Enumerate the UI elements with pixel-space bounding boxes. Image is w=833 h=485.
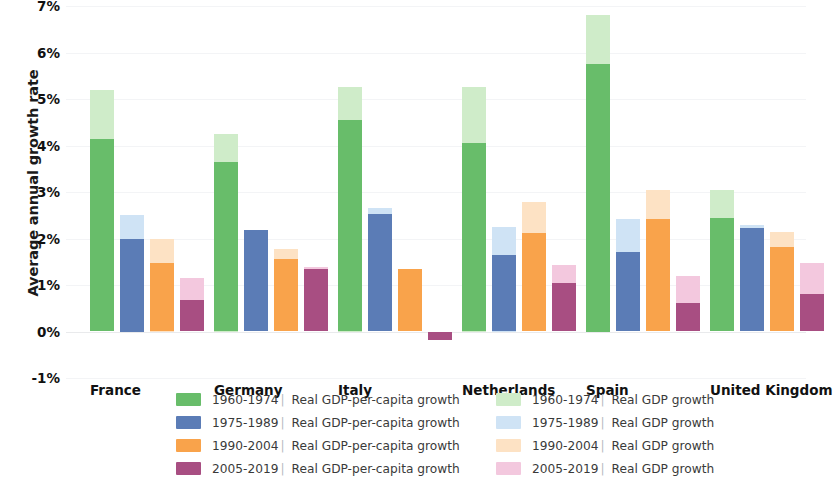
legend-swatch (496, 462, 521, 475)
legend-period: 2005-2019 (532, 462, 598, 476)
y-axis-tick-label: 1% (14, 277, 60, 293)
bar-segment-gdp-per-capita-growth (522, 233, 546, 332)
bar[interactable] (368, 6, 392, 378)
bar-segment-gdp-per-capita-growth (616, 252, 640, 332)
bar-group: Spain (586, 6, 699, 378)
bar[interactable] (90, 6, 114, 378)
bar-segment-gdp-per-capita-growth (244, 230, 268, 331)
legend-metric: Real GDP-per-capita growth (292, 439, 460, 453)
bar[interactable] (462, 6, 486, 378)
bar-group: Germany (214, 6, 327, 378)
legend-separator: | (278, 462, 291, 476)
legend-per-capita-item[interactable]: 1960-1974|Real GDP-per-capita growth (176, 388, 476, 411)
bar-segment-gdp-per-capita-growth (368, 214, 392, 331)
legend-period: 1960-1974 (212, 393, 278, 407)
bar-segment-gdp-per-capita-growth (492, 255, 516, 332)
legend-column-per-capita: 1960-1974|Real GDP-per-capita growth1975… (176, 388, 476, 480)
y-axis-tick-label: 6% (14, 45, 60, 61)
bar[interactable] (150, 6, 174, 378)
y-axis-tick-label: 0% (14, 324, 60, 340)
legend-period: 1990-2004 (212, 439, 278, 453)
legend-label: 2005-2019|Real GDP-per-capita growth (212, 462, 460, 476)
legend-label: 1975-1989|Real GDP-per-capita growth (212, 416, 460, 430)
legend-swatch (176, 393, 201, 406)
legend-metric: Real GDP growth (612, 439, 715, 453)
bar[interactable] (120, 6, 144, 378)
bar-segment-gdp-per-capita-growth (800, 294, 824, 331)
legend-total-item[interactable]: 1990-2004|Real GDP growth (496, 434, 800, 457)
bar[interactable] (646, 6, 670, 378)
legend-per-capita-item[interactable]: 2005-2019|Real GDP-per-capita growth (176, 457, 476, 480)
legend-separator: | (278, 416, 291, 430)
bar[interactable] (244, 6, 268, 378)
bar-segment-gdp-per-capita-growth (770, 247, 794, 332)
bar[interactable] (338, 6, 362, 378)
legend-swatch (496, 439, 521, 452)
legend-separator: | (598, 439, 611, 453)
legend-column-total: 1960-1974|Real GDP growth1975-1989|Real … (496, 388, 800, 480)
legend-period: 1975-1989 (212, 416, 278, 430)
bar-segment-gdp-per-capita-growth (428, 332, 452, 340)
y-axis-tick-label: 7% (14, 0, 60, 14)
legend-separator: | (598, 416, 611, 430)
y-axis-tick-label: 2% (14, 231, 60, 247)
legend-metric: Real GDP-per-capita growth (292, 462, 460, 476)
legend-label: 1975-1989|Real GDP growth (532, 416, 714, 430)
legend-separator: | (598, 393, 611, 407)
bar[interactable] (274, 6, 298, 378)
legend-metric: Real GDP growth (612, 393, 715, 407)
legend-total-item[interactable]: 2005-2019|Real GDP growth (496, 457, 800, 480)
bar[interactable] (616, 6, 640, 378)
legend-label: 1990-2004|Real GDP growth (532, 439, 714, 453)
bar[interactable] (180, 6, 204, 378)
bar[interactable] (522, 6, 546, 378)
bar[interactable] (214, 6, 238, 378)
bar-segment-gdp-per-capita-growth (338, 120, 362, 332)
legend-separator: | (278, 439, 291, 453)
legend-label: 1990-2004|Real GDP-per-capita growth (212, 439, 460, 453)
bar-segment-gdp-per-capita-growth (646, 219, 670, 332)
bar-group: United Kingdom (710, 6, 823, 378)
bar[interactable] (740, 6, 764, 378)
bar-segment-gdp-per-capita-growth (710, 218, 734, 332)
bar[interactable] (586, 6, 610, 378)
legend-metric: Real GDP growth (612, 416, 715, 430)
bar-segment-gdp-per-capita-growth (552, 283, 576, 332)
bar-group: Italy (338, 6, 451, 378)
bar[interactable] (552, 6, 576, 378)
legend-period: 2005-2019 (212, 462, 278, 476)
bar-segment-gdp-per-capita-growth (676, 303, 700, 332)
legend-label: 1960-1974|Real GDP growth (532, 393, 714, 407)
y-axis-tick-label: 3% (14, 184, 60, 200)
bar-segment-gdp-per-capita-growth (398, 269, 422, 332)
legend-swatch (496, 416, 521, 429)
y-axis-tick-label: -1% (14, 370, 60, 386)
legend-per-capita-item[interactable]: 1990-2004|Real GDP-per-capita growth (176, 434, 476, 457)
bar[interactable] (304, 6, 328, 378)
legend-period: 1975-1989 (532, 416, 598, 430)
legend-per-capita-item[interactable]: 1975-1989|Real GDP-per-capita growth (176, 411, 476, 434)
bar-segment-gdp-per-capita-growth (740, 228, 764, 331)
plot-area: 7%6%5%4%3%2%1%0%-1% FranceGermanyItalyNe… (66, 6, 806, 378)
legend-label: 2005-2019|Real GDP growth (532, 462, 714, 476)
bar-segment-gdp-per-capita-growth (180, 300, 204, 332)
bar[interactable] (710, 6, 734, 378)
bar-segment-gdp-per-capita-growth (90, 139, 114, 332)
bar[interactable] (492, 6, 516, 378)
legend-period: 1960-1974 (532, 393, 598, 407)
legend-swatch (176, 439, 201, 452)
legend-metric: Real GDP-per-capita growth (292, 393, 460, 407)
bar-segment-gdp-per-capita-growth (304, 269, 328, 332)
bar[interactable] (770, 6, 794, 378)
bar[interactable] (398, 6, 422, 378)
bar-segment-gdp-per-capita-growth (150, 263, 174, 331)
y-axis-tick-label: 5% (14, 91, 60, 107)
bar[interactable] (676, 6, 700, 378)
legend-total-item[interactable]: 1975-1989|Real GDP growth (496, 411, 800, 434)
legend-metric: Real GDP growth (612, 462, 715, 476)
bar[interactable] (428, 6, 452, 378)
bar-segment-gdp-per-capita-growth (120, 239, 144, 332)
legend-total-item[interactable]: 1960-1974|Real GDP growth (496, 388, 800, 411)
bar[interactable] (800, 6, 824, 378)
